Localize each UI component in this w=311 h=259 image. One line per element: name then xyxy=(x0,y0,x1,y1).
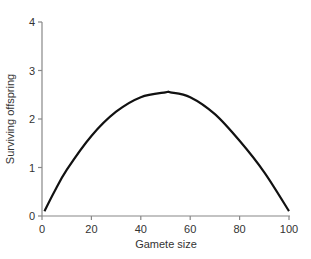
y-tick-label: 0 xyxy=(29,210,35,222)
x-axis-label: Gamete size xyxy=(135,238,197,250)
x-tick-label: 40 xyxy=(135,223,147,235)
y-tick-label: 1 xyxy=(29,162,35,174)
data-line xyxy=(44,92,289,211)
y-ticks: 01234 xyxy=(29,16,42,222)
x-tick-label: 0 xyxy=(39,223,45,235)
y-axis-label: Surviving offspring xyxy=(4,74,16,164)
y-tick-label: 3 xyxy=(29,65,35,77)
y-tick-label: 4 xyxy=(29,16,35,28)
x-ticks: 020406080100 xyxy=(39,216,298,235)
x-tick-label: 60 xyxy=(184,223,196,235)
x-tick-label: 100 xyxy=(280,223,298,235)
y-tick-label: 2 xyxy=(29,113,35,125)
chart: 01234 020406080100 Gamete size Surviving… xyxy=(0,0,311,259)
x-tick-label: 80 xyxy=(233,223,245,235)
x-tick-label: 20 xyxy=(85,223,97,235)
axes xyxy=(42,22,290,216)
